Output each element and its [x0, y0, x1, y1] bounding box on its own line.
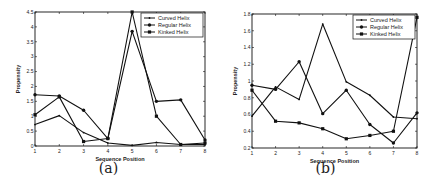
data-point: [321, 127, 324, 130]
data-point: [322, 23, 324, 25]
x-tick-label: 4: [321, 150, 324, 156]
y-tick-label: 3.5: [27, 39, 34, 45]
line-chart-b: 123456780.20.40.60.811.21.41.61.8Sequenc…: [217, 0, 434, 185]
data-point: [392, 130, 395, 133]
data-point: [155, 115, 158, 118]
data-point: [298, 99, 300, 101]
chart-panel-a: 1234567800.511.522.533.544.5Sequence Pos…: [0, 0, 217, 185]
data-point: [155, 100, 158, 103]
y-tick-label: 4.5: [27, 9, 34, 15]
legend-label: Curved Helix: [370, 17, 402, 23]
data-point: [368, 134, 371, 137]
y-tick-label: 0.8: [244, 95, 251, 101]
data-point: [369, 94, 371, 96]
x-tick-label: 2: [58, 148, 61, 154]
y-tick-label: 2.5: [27, 68, 34, 74]
x-tick-label: 7: [179, 148, 182, 154]
y-axis-label: Propensity: [15, 64, 21, 93]
legend-label: Kinked Helix: [158, 29, 189, 35]
data-point: [416, 118, 418, 120]
data-point: [368, 123, 371, 126]
y-tick-label: 0.6: [244, 111, 251, 117]
x-tick-label: 3: [82, 148, 85, 154]
y-tick-label: 1: [31, 113, 34, 119]
chart-panel-b: 123456780.20.40.60.811.21.41.61.8Sequenc…: [217, 0, 434, 185]
line-chart-a: 1234567800.511.522.533.544.5Sequence Pos…: [0, 0, 217, 185]
data-point: [107, 142, 109, 144]
legend-label: Kinked Helix: [370, 31, 401, 37]
y-tick-label: 0.4: [244, 128, 251, 134]
legend-marker: [360, 25, 363, 28]
y-tick-label: 4: [31, 24, 34, 30]
data-point: [33, 113, 36, 116]
x-tick-label: 5: [131, 148, 134, 154]
y-tick-label: 2: [31, 83, 34, 89]
y-tick-label: 3: [31, 53, 34, 59]
x-tick-label: 4: [106, 148, 109, 154]
data-point: [297, 60, 300, 63]
y-axis-label: Propensity: [232, 66, 238, 95]
data-point: [130, 30, 133, 33]
data-point: [34, 124, 36, 126]
data-point: [392, 141, 395, 144]
data-point: [82, 140, 85, 143]
data-point: [345, 81, 347, 83]
data-point: [393, 116, 395, 118]
legend-marker: [361, 19, 363, 21]
legend-marker: [148, 23, 151, 26]
y-tick-label: 1.6: [244, 28, 251, 34]
x-tick-label: 8: [204, 148, 207, 154]
x-tick-label: 3: [298, 150, 301, 156]
legend-marker: [360, 32, 363, 35]
x-tick-label: 1: [251, 150, 254, 156]
data-point: [251, 115, 253, 117]
data-point: [415, 16, 418, 19]
caption-a: (a): [0, 160, 217, 176]
legend-marker: [148, 30, 151, 33]
y-tick-label: 1.2: [244, 61, 251, 67]
y-tick-label: 1.8: [244, 11, 251, 17]
data-point: [131, 10, 134, 13]
data-point: [275, 86, 277, 88]
y-tick-label: 0.5: [27, 128, 34, 134]
data-point: [179, 98, 182, 101]
legend-label: Regular Helix: [158, 22, 191, 28]
y-tick-label: 0: [31, 143, 34, 149]
data-point: [250, 89, 253, 92]
data-point: [83, 132, 85, 134]
y-tick-label: 1.5: [27, 98, 34, 104]
series-line: [35, 31, 205, 140]
data-point: [298, 121, 301, 124]
data-point: [156, 142, 158, 144]
y-tick-label: 0.2: [244, 145, 251, 151]
legend-label: Curved Helix: [158, 15, 190, 21]
data-point: [415, 111, 418, 114]
x-tick-label: 2: [274, 150, 277, 156]
data-point: [131, 145, 133, 147]
data-point: [58, 95, 61, 98]
data-point: [82, 109, 85, 112]
data-point: [106, 137, 109, 140]
data-point: [274, 88, 277, 91]
x-tick-label: 7: [392, 150, 395, 156]
data-point: [250, 83, 253, 86]
legend-label: Regular Helix: [370, 24, 403, 30]
x-tick-label: 8: [416, 150, 419, 156]
data-point: [203, 141, 206, 144]
x-tick-label: 5: [345, 150, 348, 156]
data-point: [321, 112, 324, 115]
caption-b: (b): [217, 160, 434, 176]
x-tick-label: 6: [155, 148, 158, 154]
data-point: [33, 93, 36, 96]
series-line: [35, 116, 205, 146]
data-point: [203, 138, 206, 141]
data-point: [58, 115, 60, 117]
data-point: [345, 137, 348, 140]
data-point: [179, 143, 182, 146]
x-tick-label: 1: [34, 148, 37, 154]
x-tick-label: 6: [368, 150, 371, 156]
data-point: [345, 89, 348, 92]
y-tick-label: 1: [248, 78, 251, 84]
y-tick-label: 1.4: [244, 44, 251, 50]
data-point: [274, 120, 277, 123]
